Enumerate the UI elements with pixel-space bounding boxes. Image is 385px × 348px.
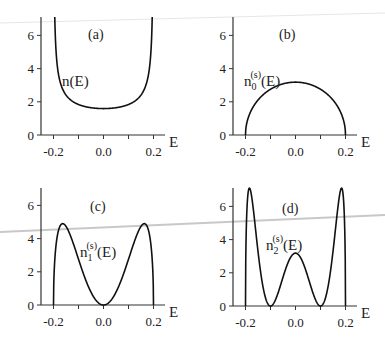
y-tick-label: 4 bbox=[28, 61, 35, 76]
scan-artifact-line bbox=[0, 215, 385, 232]
x-tick-label: 0.0 bbox=[287, 144, 303, 159]
x-axis-label: E bbox=[169, 134, 178, 150]
x-tick-label: 0.0 bbox=[287, 315, 303, 330]
panel-label: (b) bbox=[279, 27, 296, 43]
x-tick-label: -0.2 bbox=[235, 315, 256, 330]
curve-label: n2(s)(E) bbox=[266, 233, 302, 256]
x-axis-label: E bbox=[361, 305, 370, 321]
density-curve bbox=[246, 82, 346, 135]
chart-panel-b: 0246-0.20.00.2E(b)n0(s)(E) bbox=[220, 17, 371, 159]
y-tick-label: 6 bbox=[28, 198, 35, 213]
y-tick-label: 4 bbox=[220, 232, 227, 247]
y-tick-label: 6 bbox=[220, 28, 227, 43]
curve-label: n0(s)(E) bbox=[244, 69, 280, 92]
x-tick-label: 0.0 bbox=[95, 314, 111, 329]
chart-panel-d: 0246-0.20.00.2E(d)n2(s)(E) bbox=[220, 188, 371, 330]
chart-panel-c: 0246-0.20.00.2E(c)n1(s)(E) bbox=[28, 188, 179, 329]
y-tick-label: 2 bbox=[220, 265, 227, 280]
y-tick-label: 0 bbox=[220, 299, 227, 314]
chart-panel-a: 0246-0.20.00.2E(a)n(E) bbox=[28, 17, 179, 159]
x-tick-label: 0.2 bbox=[145, 314, 161, 329]
panel-label: (c) bbox=[90, 199, 106, 215]
x-tick-label: 0.2 bbox=[145, 144, 161, 159]
scan-artifact-line bbox=[0, 13, 385, 23]
panel-label: (a) bbox=[88, 27, 104, 43]
panel-label: (d) bbox=[282, 201, 299, 217]
x-tick-label: -0.2 bbox=[43, 314, 64, 329]
y-tick-label: 2 bbox=[28, 264, 35, 279]
y-tick-label: 0 bbox=[28, 298, 35, 313]
y-tick-label: 2 bbox=[28, 94, 35, 109]
x-tick-label: 0.2 bbox=[337, 144, 353, 159]
x-axis-label: E bbox=[169, 304, 178, 320]
curve-label: n(E) bbox=[62, 73, 89, 90]
density-curve bbox=[54, 224, 154, 305]
y-tick-label: 6 bbox=[28, 28, 35, 43]
figure: 0246-0.20.00.2E(a)n(E)0246-0.20.00.2E(b)… bbox=[0, 0, 385, 348]
curve-label: n1(s)(E) bbox=[80, 240, 116, 263]
x-axis-label: E bbox=[361, 134, 370, 150]
y-tick-label: 2 bbox=[220, 94, 227, 109]
x-tick-label: 0.2 bbox=[337, 315, 353, 330]
x-tick-label: -0.2 bbox=[235, 144, 256, 159]
y-tick-label: 0 bbox=[28, 128, 35, 143]
y-tick-label: 6 bbox=[220, 199, 227, 214]
x-tick-label: -0.2 bbox=[43, 144, 64, 159]
y-tick-label: 4 bbox=[220, 61, 227, 76]
y-tick-label: 4 bbox=[28, 231, 35, 246]
y-tick-label: 0 bbox=[220, 128, 227, 143]
x-tick-label: 0.0 bbox=[95, 144, 111, 159]
